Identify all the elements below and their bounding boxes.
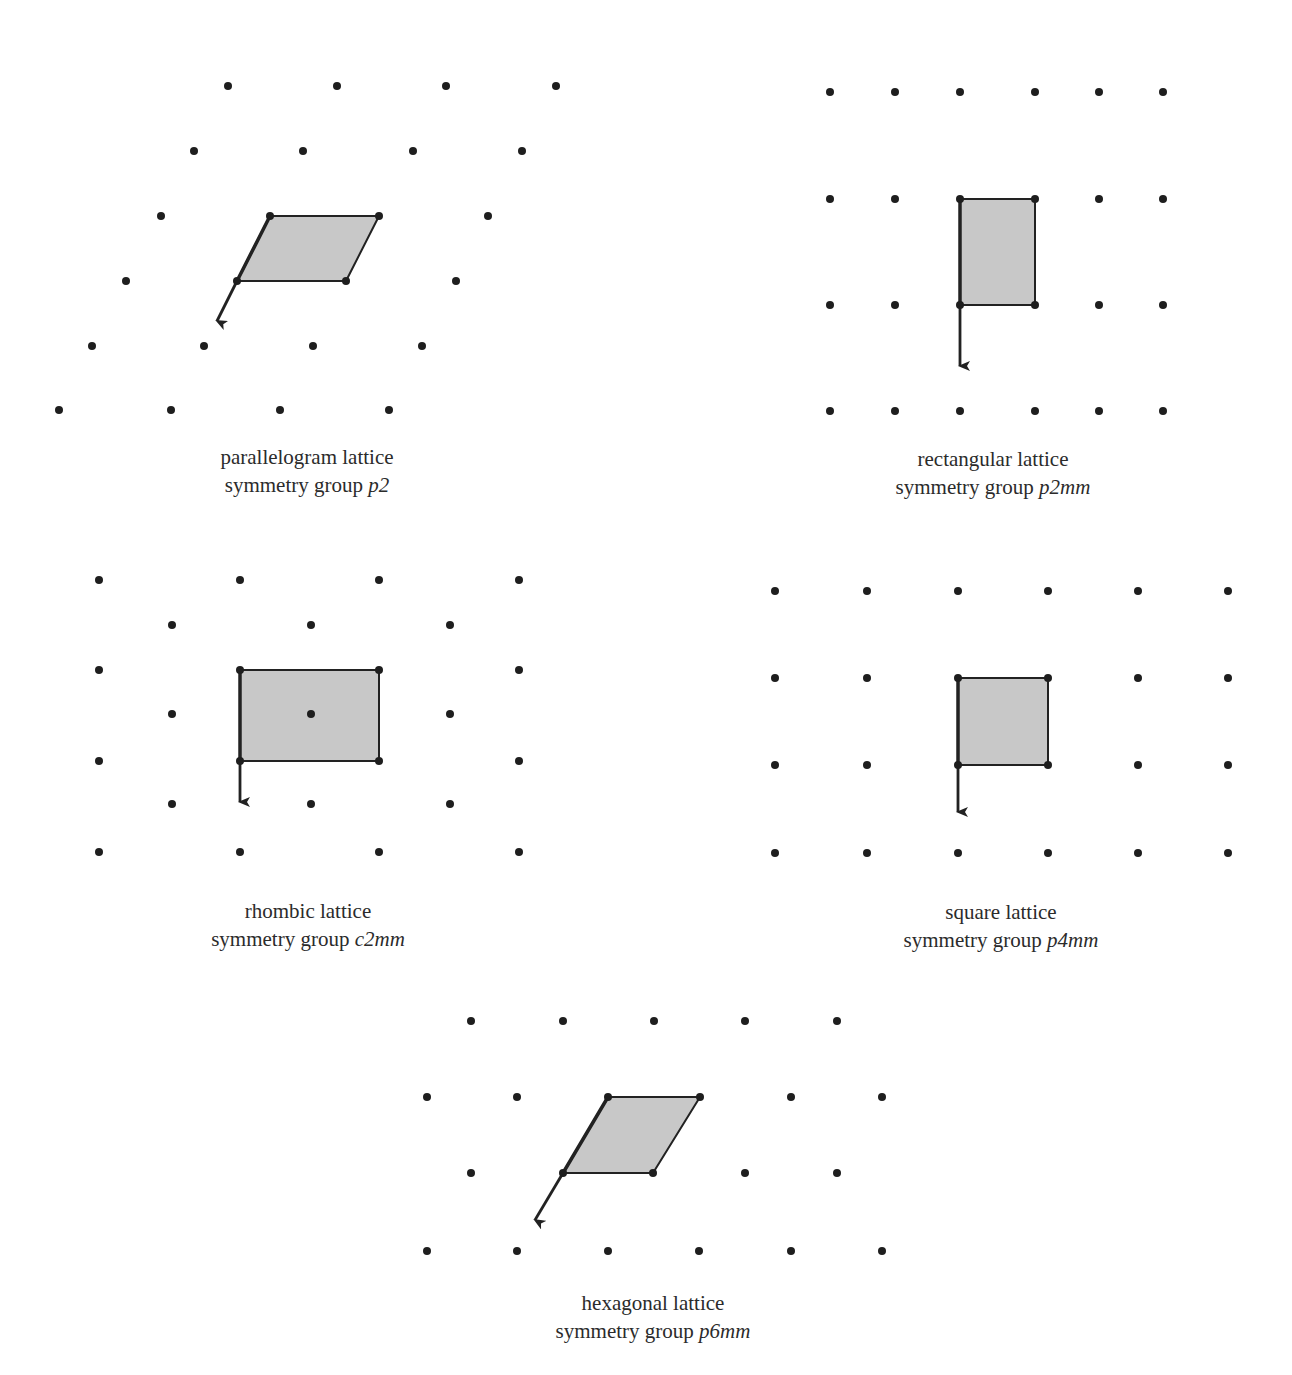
lattice-point	[95, 848, 103, 856]
caption-square: square lattice symmetry group p4mm	[904, 898, 1099, 954]
lattice-point	[236, 576, 244, 584]
lattice-point	[604, 1247, 612, 1255]
symmetry-group-label: symmetry group	[904, 928, 1047, 952]
lattice-point	[423, 1247, 431, 1255]
lattice-point	[236, 848, 244, 856]
lattice-point	[604, 1093, 612, 1101]
parallelogram-lattice-panel	[55, 82, 560, 414]
lattice-point	[342, 277, 350, 285]
unit-cell	[958, 678, 1048, 765]
lattice-name: parallelogram lattice	[220, 443, 393, 471]
lattice-point	[1031, 407, 1039, 415]
lattice-point	[307, 800, 315, 808]
lattice-point	[95, 666, 103, 674]
lattice-point	[236, 757, 244, 765]
lattice-point	[446, 800, 454, 808]
lattice-point	[513, 1093, 521, 1101]
lattice-point	[307, 710, 315, 718]
lattice-point	[375, 666, 383, 674]
lattice-point	[442, 82, 450, 90]
lattice-point	[1159, 407, 1167, 415]
lattice-point	[515, 576, 523, 584]
lattice-point	[168, 710, 176, 718]
lattice-point	[276, 406, 284, 414]
lattice-point	[266, 212, 274, 220]
lattice-point	[826, 88, 834, 96]
lattice-point	[552, 82, 560, 90]
lattice-point	[891, 88, 899, 96]
lattice-point	[515, 666, 523, 674]
lattice-point	[446, 621, 454, 629]
lattice-point	[385, 406, 393, 414]
lattice-name: rhombic lattice	[211, 897, 405, 925]
caption-rhombic: rhombic lattice symmetry group c2mm	[211, 897, 405, 953]
lattice-point	[1224, 587, 1232, 595]
symmetry-group-line: symmetry group p2mm	[896, 473, 1091, 501]
lattice-point	[157, 212, 165, 220]
symmetry-group-symbol: p4mm	[1047, 928, 1098, 952]
lattice-point	[771, 674, 779, 682]
lattice-point	[1095, 407, 1103, 415]
lattice-point	[863, 587, 871, 595]
lattice-point	[1031, 195, 1039, 203]
lattice-point	[1159, 301, 1167, 309]
lattice-point	[1044, 587, 1052, 595]
arrow-icon	[217, 281, 237, 321]
lattice-point	[1224, 761, 1232, 769]
symmetry-group-label: symmetry group	[896, 475, 1039, 499]
lattice-point	[826, 301, 834, 309]
symmetry-group-symbol: c2mm	[355, 927, 405, 951]
caption-parallelogram: parallelogram lattice symmetry group p2	[220, 443, 393, 499]
lattice-point	[375, 212, 383, 220]
lattice-point	[1224, 849, 1232, 857]
lattice-point	[1134, 587, 1142, 595]
lattice-point	[954, 761, 962, 769]
lattice-point	[741, 1169, 749, 1177]
lattice-point	[956, 195, 964, 203]
lattice-point	[375, 757, 383, 765]
lattice-point	[559, 1017, 567, 1025]
lattice-point	[467, 1169, 475, 1177]
lattice-name: rectangular lattice	[896, 445, 1091, 473]
symmetry-group-label: symmetry group	[211, 927, 354, 951]
lattice-point	[307, 621, 315, 629]
lattice-point	[1044, 761, 1052, 769]
unit-cell	[960, 199, 1035, 305]
lattice-point	[1095, 195, 1103, 203]
lattice-point	[1044, 674, 1052, 682]
lattice-point	[1134, 674, 1142, 682]
square-lattice-panel	[771, 587, 1232, 857]
symmetry-group-symbol: p2mm	[1039, 475, 1090, 499]
lattice-point	[1095, 88, 1103, 96]
lattice-point	[375, 848, 383, 856]
lattice-point	[1044, 849, 1052, 857]
rectangular-lattice-panel	[826, 88, 1167, 415]
lattice-point	[878, 1247, 886, 1255]
lattice-point	[95, 757, 103, 765]
lattice-point	[954, 587, 962, 595]
lattice-point	[891, 407, 899, 415]
symmetry-group-line: symmetry group c2mm	[211, 925, 405, 953]
lattice-point	[695, 1247, 703, 1255]
lattice-point	[826, 195, 834, 203]
lattice-point	[1159, 195, 1167, 203]
lattice-point	[515, 757, 523, 765]
lattice-point	[863, 674, 871, 682]
lattice-point	[95, 576, 103, 584]
lattice-point	[233, 277, 241, 285]
lattice-point	[833, 1017, 841, 1025]
lattice-point	[891, 301, 899, 309]
lattice-point	[467, 1017, 475, 1025]
symmetry-group-symbol: p6mm	[699, 1319, 750, 1343]
lattice-point	[309, 342, 317, 350]
arrow-icon	[535, 1173, 563, 1220]
rhombic-lattice-panel	[95, 576, 523, 856]
lattice-point	[771, 849, 779, 857]
lattice-point	[954, 674, 962, 682]
lattice-point	[787, 1247, 795, 1255]
lattice-point	[518, 147, 526, 155]
lattice-point	[1031, 88, 1039, 96]
lattice-point	[88, 342, 96, 350]
lattice-point	[446, 710, 454, 718]
caption-hexagonal: hexagonal lattice symmetry group p6mm	[556, 1289, 751, 1345]
